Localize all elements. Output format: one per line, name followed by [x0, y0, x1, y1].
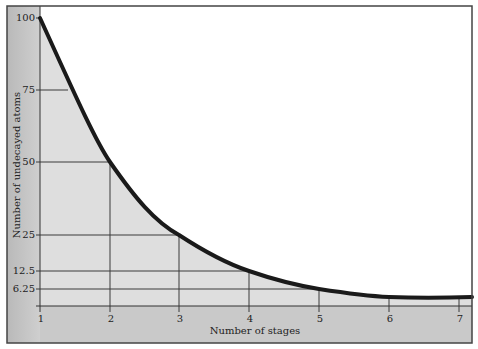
y-tick-label: 75 — [22, 84, 35, 95]
x-tick-label: 7 — [457, 313, 463, 324]
x-tick-label: 3 — [177, 313, 183, 324]
y-tick-label: 12.5 — [13, 265, 35, 276]
x-tick-label: 2 — [108, 313, 114, 324]
y-axis-title: Number of undecayed atoms — [11, 92, 22, 238]
y-tick-label: 6.25 — [13, 283, 35, 294]
x-tick-label: 5 — [317, 313, 323, 324]
decay-chart: 100 75 50 25 12.5 6.25 1 2 3 4 5 6 7 Num… — [0, 0, 478, 349]
x-tick-label: 6 — [387, 313, 393, 324]
y-tick-label: 25 — [22, 229, 35, 240]
x-tick-label: 4 — [247, 313, 253, 324]
x-axis-title: Number of stages — [210, 325, 300, 336]
y-tick-label: 100 — [16, 12, 35, 23]
y-tick-label: 50 — [22, 156, 35, 167]
x-tick-label: 1 — [38, 313, 44, 324]
